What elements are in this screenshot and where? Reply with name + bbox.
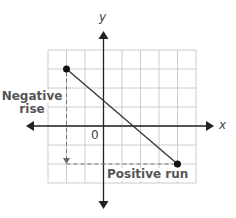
y-axis-label: y — [99, 10, 106, 24]
y-axis-down-arrow-icon — [99, 201, 109, 209]
origin-label: 0 — [91, 128, 99, 142]
y-axis-up-arrow-icon — [99, 31, 109, 39]
positive-run-label: Positive run — [106, 168, 189, 181]
x-axis-right-arrow-icon — [206, 121, 214, 131]
x-axis-label: x — [219, 118, 226, 132]
x-axis-left-arrow-icon — [26, 121, 34, 131]
slope-diagram: y x 0 Negative rise Positive run — [0, 0, 236, 218]
negative-rise-label: Negative rise — [1, 90, 63, 116]
rise-arrowhead-icon — [63, 158, 70, 164]
x-axis — [26, 121, 214, 131]
point-start — [63, 66, 70, 73]
negative-rise-label-line2: rise — [1, 103, 63, 116]
y-axis — [99, 31, 109, 209]
